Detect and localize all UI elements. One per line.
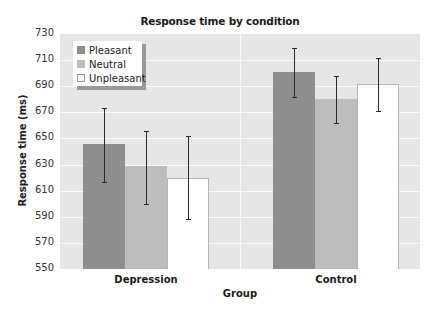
error-bar-cap (186, 219, 191, 220)
y-tick-label: 650 (18, 131, 54, 142)
legend-item-neutral: Neutral (77, 57, 126, 71)
bar-control-pleasant (273, 72, 315, 269)
error-bar (146, 131, 147, 204)
error-bar (336, 76, 337, 123)
error-bar-cap (334, 76, 339, 77)
error-bar-cap (376, 58, 381, 59)
error-bar-cap (144, 204, 149, 205)
bar-chart: Response time by condition Response time… (0, 0, 440, 314)
y-tick-label: 710 (18, 53, 54, 64)
y-tick-label: 590 (18, 210, 54, 221)
legend-swatch-icon (77, 46, 85, 54)
error-bar-cap (102, 182, 107, 183)
legend-item-pleasant: Pleasant (77, 43, 132, 57)
legend-label: Neutral (89, 59, 126, 70)
error-bar-cap (186, 136, 191, 137)
error-bar-cap (376, 111, 381, 112)
y-tick-label: 570 (18, 236, 54, 247)
y-tick-label: 630 (18, 158, 54, 169)
y-tick-label: 690 (18, 79, 54, 90)
error-bar (188, 136, 189, 220)
x-tick-label: Control (266, 274, 406, 285)
error-bar (294, 48, 295, 96)
error-bar (104, 108, 105, 181)
x-axis-label: Group (60, 288, 420, 299)
legend-swatch-icon (77, 74, 85, 82)
error-bar-cap (144, 131, 149, 132)
error-bar-cap (334, 123, 339, 124)
error-bar-cap (292, 48, 297, 49)
error-bar (378, 58, 379, 112)
legend: PleasantNeutralUnpleasant (73, 41, 142, 86)
legend-label: Pleasant (89, 45, 132, 56)
legend-label: Unpleasant (89, 73, 146, 84)
legend-swatch-icon (77, 60, 85, 68)
y-tick-label: 550 (18, 262, 54, 273)
bar-control-neutral (315, 99, 357, 269)
legend-item-unpleasant: Unpleasant (77, 71, 146, 85)
chart-title: Response time by condition (0, 15, 440, 27)
error-bar-cap (102, 108, 107, 109)
x-tick-label: Depression (76, 274, 216, 285)
error-bar-cap (292, 97, 297, 98)
y-tick-label: 670 (18, 105, 54, 116)
y-tick-label: 730 (18, 27, 54, 38)
y-tick-label: 610 (18, 184, 54, 195)
group-divider (240, 34, 241, 269)
